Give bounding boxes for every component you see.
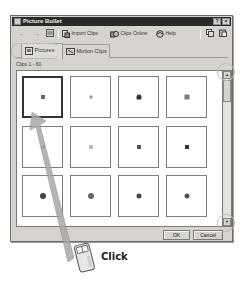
click-callout-label: Click [101,251,128,262]
mouse-icon [73,241,97,279]
pointer-arrow [0,0,244,284]
